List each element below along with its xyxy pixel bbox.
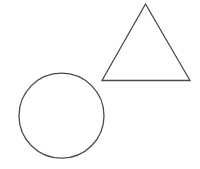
diagram-canvas: [0, 0, 200, 169]
circle-shape: [19, 73, 104, 158]
triangle-shape: [102, 4, 190, 81]
